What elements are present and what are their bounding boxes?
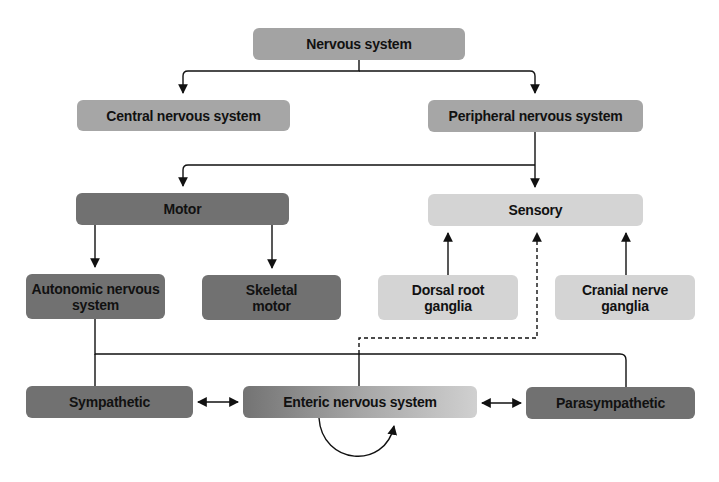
node-label: Autonomic nervous system — [31, 281, 161, 313]
node-label: Sensory — [509, 202, 563, 218]
node-label: Enteric nervous system — [283, 394, 437, 410]
node-label: Central nervous system — [106, 108, 260, 124]
node-label: Cranial nerve ganglia — [570, 282, 680, 314]
edge-peripheral-to-motor — [183, 165, 535, 186]
node-label: Motor — [164, 201, 202, 217]
node-sensory: Sensory — [428, 194, 643, 226]
node-label: Dorsal root ganglia — [398, 282, 498, 314]
node-motor: Motor — [76, 193, 289, 225]
node-dorsal-root-ganglia: Dorsal root ganglia — [378, 275, 518, 320]
node-label: Sympathetic — [69, 394, 150, 410]
node-cranial-nerve-ganglia: Cranial nerve ganglia — [555, 275, 695, 320]
node-label: Skeletal motor — [237, 282, 307, 314]
edge-nervous-to-peripheral — [359, 71, 535, 93]
node-enteric-nervous-system: Enteric nervous system — [243, 386, 477, 418]
node-sympathetic: Sympathetic — [26, 386, 193, 418]
node-parasympathetic: Parasympathetic — [526, 387, 695, 419]
edge-nervous-to-central — [183, 60, 359, 93]
node-label: Peripheral nervous system — [449, 108, 623, 124]
node-label: Nervous system — [306, 36, 411, 52]
node-skeletal-motor: Skeletal motor — [202, 275, 341, 320]
node-central-nervous-system: Central nervous system — [77, 100, 290, 131]
node-autonomic-nervous-system: Autonomic nervous system — [26, 274, 165, 319]
node-label: Parasympathetic — [556, 395, 665, 411]
node-peripheral-nervous-system: Peripheral nervous system — [428, 100, 643, 132]
edge-enteric-self-loop — [319, 418, 394, 456]
edge-autonomic-bus — [95, 319, 626, 387]
node-nervous-system: Nervous system — [253, 28, 465, 60]
